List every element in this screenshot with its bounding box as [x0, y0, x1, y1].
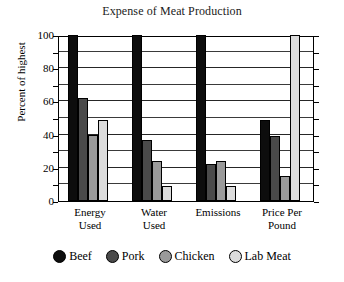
y-tick-label: 40 — [14, 130, 54, 141]
legend-item: Chicken — [159, 249, 215, 264]
bar — [196, 35, 206, 201]
bar — [78, 98, 88, 201]
y-tick-label: 100 — [14, 30, 54, 41]
bar-groups — [59, 37, 313, 201]
bar-group — [251, 37, 315, 201]
y-tick-label: 20 — [14, 163, 54, 174]
legend-item: Pork — [106, 249, 145, 264]
bar — [162, 186, 172, 201]
bar — [260, 120, 270, 201]
bar-group — [187, 37, 251, 201]
bar — [88, 135, 98, 201]
chart-title: Expense of Meat Production — [0, 4, 344, 19]
chart-legend: BeefPorkChickenLab Meat — [0, 249, 344, 264]
plot-area — [58, 36, 314, 202]
legend-swatch-circle-icon — [53, 250, 66, 263]
legend-label: Lab Meat — [245, 249, 291, 264]
bar — [132, 35, 142, 201]
legend-swatch-circle-icon — [229, 250, 242, 263]
bar — [206, 164, 216, 201]
y-tick-label: 80 — [14, 63, 54, 74]
bar — [98, 120, 108, 201]
bar — [142, 140, 152, 201]
bar — [280, 176, 290, 201]
bar-group — [59, 37, 123, 201]
bar — [290, 35, 300, 201]
y-tick-mark — [314, 202, 319, 203]
x-category-line: Pound — [240, 219, 324, 232]
bar — [270, 136, 280, 201]
bar — [152, 161, 162, 201]
bar — [216, 161, 226, 201]
legend-swatch-circle-icon — [106, 250, 119, 263]
legend-item: Lab Meat — [229, 249, 291, 264]
legend-item: Beef — [53, 249, 92, 264]
x-category-label: Price PerPound — [240, 206, 324, 232]
legend-swatch-circle-icon — [159, 250, 172, 263]
y-tick-label: 60 — [14, 96, 54, 107]
bar — [68, 35, 78, 201]
legend-label: Chicken — [175, 249, 215, 264]
x-category-line: Used — [112, 219, 196, 232]
bar-chart: Expense of Meat Production Percent of hi… — [0, 0, 344, 282]
bar-group — [123, 37, 187, 201]
legend-label: Beef — [69, 249, 92, 264]
legend-label: Pork — [122, 249, 145, 264]
y-tick-mark — [53, 202, 58, 203]
x-category-line: Price Per — [240, 206, 324, 219]
bar — [226, 186, 236, 201]
